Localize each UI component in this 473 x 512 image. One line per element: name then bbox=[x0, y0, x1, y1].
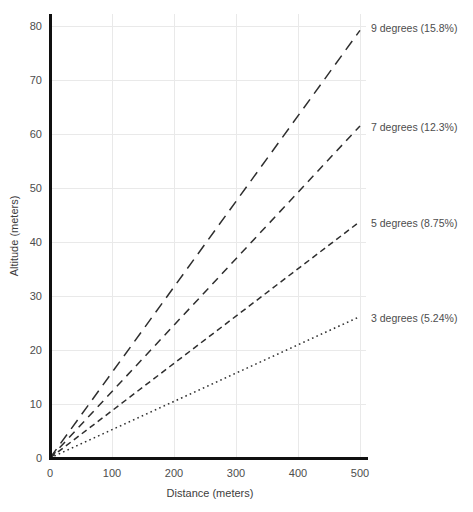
series-label-7-degrees: 7 degrees (12.3%) bbox=[371, 121, 457, 133]
y-tick-label: 60 bbox=[30, 128, 42, 140]
x-tick-label: 500 bbox=[351, 467, 369, 479]
y-tick-label: 10 bbox=[30, 398, 42, 410]
series-label-3-degrees: 3 degrees (5.24%) bbox=[371, 312, 457, 324]
x-tick-label: 400 bbox=[289, 467, 307, 479]
y-tick-label: 80 bbox=[30, 20, 42, 32]
series-label-5-degrees: 5 degrees (8.75%) bbox=[371, 217, 457, 229]
x-tick-label: 300 bbox=[227, 467, 245, 479]
y-tick-label: 40 bbox=[30, 236, 42, 248]
x-tick-label: 0 bbox=[47, 467, 53, 479]
x-tick-label: 200 bbox=[165, 467, 183, 479]
series-label-9-degrees: 9 degrees (15.8%) bbox=[371, 22, 457, 34]
y-tick-label: 0 bbox=[36, 452, 42, 464]
y-tick-label: 20 bbox=[30, 344, 42, 356]
x-axis-title: Distance (meters) bbox=[167, 487, 254, 499]
chart-container: 0 10 20 30 40 50 60 70 80 0 100 200 300 … bbox=[0, 0, 473, 512]
y-tick-label: 70 bbox=[30, 74, 42, 86]
y-tick-label: 30 bbox=[30, 290, 42, 302]
y-tick-label: 50 bbox=[30, 182, 42, 194]
altitude-vs-distance-line-chart: 0 10 20 30 40 50 60 70 80 0 100 200 300 … bbox=[0, 0, 473, 512]
y-axis-title: Altitude (meters) bbox=[8, 196, 20, 277]
x-tick-label: 100 bbox=[103, 467, 121, 479]
